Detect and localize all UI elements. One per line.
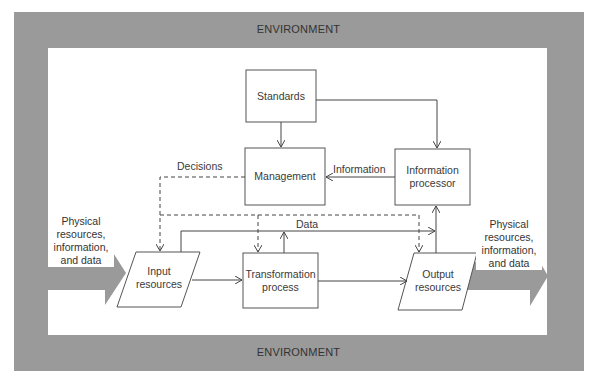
inbound-label-line2: resources, [50, 228, 112, 241]
data-label: Data [296, 218, 318, 231]
standards-label: Standards [246, 90, 316, 103]
outbound-label-line4: and data [478, 257, 540, 270]
outbound-label: Physical resources, information, and dat… [476, 218, 542, 270]
management-label: Management [245, 170, 325, 183]
outbound-label-line2: resources, [478, 231, 540, 244]
transformation-process-label-2: process [243, 281, 318, 294]
outbound-label-line3: information, [478, 244, 540, 257]
edge-standards-info-processor [316, 100, 437, 148]
output-resources-label-1: Output [406, 268, 470, 281]
edge-data [181, 231, 435, 252]
input-resources-label-2: resources [128, 278, 190, 291]
inbound-label-line3: information, [50, 241, 112, 254]
information-processor-label-1: Information [395, 164, 470, 177]
transformation-process-label-1: Transformation [243, 268, 318, 281]
output-resources-label-2: resources [406, 281, 470, 294]
edge-decisions-input [160, 177, 245, 251]
information-label: Information [333, 163, 386, 176]
diagram-canvas [0, 0, 597, 380]
input-resources-label-1: Input [128, 265, 190, 278]
information-processor-label-2: processor [395, 177, 470, 190]
decisions-label: Decisions [177, 160, 223, 173]
inbound-label: Physical resources, information, and dat… [48, 215, 114, 267]
inbound-label-line4: and data [50, 254, 112, 267]
outbound-label-line1: Physical [478, 218, 540, 231]
inbound-label-line1: Physical [50, 215, 112, 228]
